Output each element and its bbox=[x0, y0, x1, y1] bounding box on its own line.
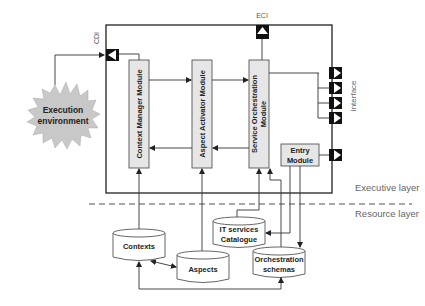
svg-text:Aspect Activator Module: Aspect Activator Module bbox=[198, 70, 207, 158]
interface-port-1 bbox=[329, 67, 342, 79]
svg-text:Module: Module bbox=[287, 156, 313, 165]
executive-layer-label: Executive layer bbox=[355, 182, 419, 193]
execution-environment-label: Execution bbox=[43, 105, 84, 115]
contexts-store: Contexts bbox=[113, 229, 165, 261]
svg-text:Service Orchestration: Service Orchestration bbox=[250, 75, 259, 153]
aspect-activator-module: Aspect Activator Module bbox=[192, 60, 212, 168]
interface-ports: Interface bbox=[269, 67, 358, 124]
execution-environment: Execution environment bbox=[27, 82, 100, 149]
aspects-store: Aspects bbox=[177, 251, 229, 283]
entry-port bbox=[329, 149, 342, 161]
architecture-diagram: Executive layer Resource layer Execution… bbox=[0, 0, 425, 306]
svg-text:schemas: schemas bbox=[263, 265, 295, 274]
interface-port-3 bbox=[329, 97, 342, 109]
interface-label: Interface bbox=[349, 80, 358, 112]
it-services-store: IT services Catalogue bbox=[213, 217, 265, 248]
eci-label: ECI bbox=[256, 12, 268, 19]
cdi-label: CDI bbox=[93, 32, 100, 44]
svg-text:Contexts: Contexts bbox=[123, 242, 155, 251]
orchestration-to-so-arrow bbox=[270, 169, 281, 247]
env-to-cdi-connector bbox=[55, 55, 104, 85]
service-orchestration-module: Service Orchestration Module bbox=[249, 60, 269, 168]
eci-port: ECI bbox=[256, 12, 269, 39]
context-manager-module: Context Manager Module bbox=[129, 60, 149, 168]
interface-port-4 bbox=[329, 112, 342, 124]
svg-text:Orchestration: Orchestration bbox=[254, 255, 304, 264]
interface-port-2 bbox=[329, 82, 342, 94]
resource-layer-label: Resource layer bbox=[355, 208, 419, 219]
svg-text:Entry: Entry bbox=[290, 146, 310, 155]
svg-text:Catalogue: Catalogue bbox=[221, 235, 257, 244]
svg-text:Context Manager Module: Context Manager Module bbox=[135, 69, 144, 158]
svg-text:Aspects: Aspects bbox=[188, 265, 217, 274]
entry-module: Entry Module bbox=[281, 144, 319, 166]
execution-environment-label-2: environment bbox=[37, 116, 88, 126]
orchestration-schemas-store: Orchestration schemas bbox=[253, 247, 305, 278]
svg-text:Module: Module bbox=[259, 101, 268, 127]
contexts-aspects-link bbox=[151, 261, 176, 267]
cdi-to-context-connector bbox=[119, 54, 139, 60]
svg-text:IT services: IT services bbox=[220, 225, 259, 234]
